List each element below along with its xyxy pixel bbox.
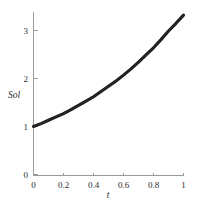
- x-tick-label-0-8: 0.8: [148, 180, 160, 190]
- data-curve-sol-highlight: [34, 15, 184, 126]
- plot-figure: 0 1 2 3 0 0.2 0.4 0.6 0.8 1 Sol t: [0, 0, 197, 205]
- y-tick-label-1: 1: [24, 122, 29, 132]
- y-tick-label-0: 0: [24, 170, 29, 180]
- y-tick-label-2: 2: [24, 74, 29, 84]
- x-tick-label-0: 0: [31, 180, 36, 190]
- y-axis-label: Sol: [8, 90, 21, 100]
- x-axis-ticks: [34, 172, 184, 176]
- x-tick-label-0-2: 0.2: [58, 180, 69, 190]
- x-tick-label-0-4: 0.4: [88, 180, 100, 190]
- x-tick-label-1: 1: [181, 180, 186, 190]
- x-axis-label: t: [107, 190, 110, 200]
- data-curve-sol: [34, 15, 184, 126]
- x-tick-label-0-6: 0.6: [118, 180, 130, 190]
- y-axis-ticks: [34, 31, 38, 175]
- y-tick-label-3: 3: [24, 26, 29, 36]
- plot-canvas: 0 1 2 3 0 0.2 0.4 0.6 0.8 1 Sol t: [0, 0, 197, 205]
